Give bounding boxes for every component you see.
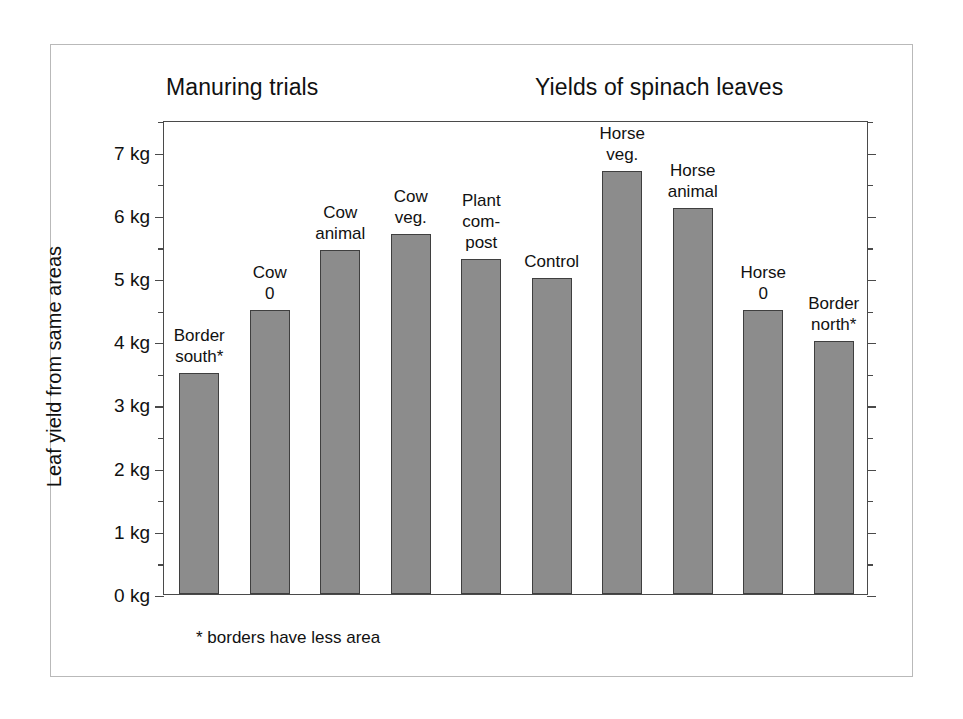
y-axis-major-tick: [867, 596, 876, 597]
chart-footnote: * borders have less area: [196, 628, 380, 648]
bar-label: Control: [524, 251, 579, 272]
chart-title-right: Yields of spinach leaves: [535, 74, 783, 101]
y-axis-tick-label: 6 kg: [114, 206, 150, 228]
y-axis-major-tick: [155, 406, 164, 407]
y-axis-minor-tick: [867, 312, 873, 313]
bar[interactable]: [391, 234, 431, 594]
y-axis-tick-label: 7 kg: [114, 143, 150, 165]
bar-label: Horse animal: [668, 160, 718, 202]
y-axis-major-tick: [155, 596, 164, 597]
bar[interactable]: [743, 310, 783, 594]
y-axis-major-tick: [867, 406, 876, 407]
y-axis-tick-label: 0 kg: [114, 585, 150, 607]
y-axis-minor-tick: [867, 248, 873, 249]
y-axis-major-tick: [867, 533, 876, 534]
bar-label: Border north*: [808, 293, 859, 335]
y-axis-title: Leaf yield from same areas: [43, 202, 66, 532]
bar[interactable]: [461, 259, 501, 594]
bar-label: Cow 0: [253, 262, 287, 304]
y-axis-major-tick: [155, 533, 164, 534]
bar-label: Cow veg.: [394, 186, 428, 228]
y-axis-minor-tick: [867, 185, 873, 186]
bar-group[interactable]: Cow 0: [250, 122, 290, 594]
y-axis-minor-tick: [867, 375, 873, 376]
y-axis-tick-label: 2 kg: [114, 459, 150, 481]
bar[interactable]: [532, 278, 572, 594]
y-axis-major-tick: [867, 154, 876, 155]
bar[interactable]: [179, 373, 219, 594]
bar[interactable]: [814, 341, 854, 594]
bar-label: Horse veg.: [600, 123, 645, 165]
bar-group[interactable]: Horse veg.: [602, 122, 642, 594]
y-axis-major-tick: [155, 470, 164, 471]
bar-group[interactable]: Horse 0: [743, 122, 783, 594]
y-axis-major-tick: [155, 217, 164, 218]
y-axis-major-tick: [155, 280, 164, 281]
y-axis-major-tick: [155, 154, 164, 155]
bar-group[interactable]: Border south*: [179, 122, 219, 594]
y-axis-major-tick: [867, 280, 876, 281]
y-axis-minor-tick: [867, 438, 873, 439]
y-axis-tick-label: 3 kg: [114, 395, 150, 417]
bar[interactable]: [320, 250, 360, 594]
bar-label: Plant com- post: [462, 190, 501, 253]
y-axis-major-tick: [867, 217, 876, 218]
chart-title-left: Manuring trials: [166, 74, 318, 101]
y-axis-major-tick: [155, 343, 164, 344]
bar-group[interactable]: Control: [532, 122, 572, 594]
bar-group[interactable]: Cow veg.: [391, 122, 431, 594]
y-axis-major-tick: [867, 470, 876, 471]
bar-series: Border south*Cow 0Cow animalCow veg.Plan…: [164, 122, 867, 594]
bar-group[interactable]: Border north*: [814, 122, 854, 594]
bar[interactable]: [250, 310, 290, 594]
y-axis-tick-label: 1 kg: [114, 522, 150, 544]
bar-label: Border south*: [174, 325, 225, 367]
y-axis-tick-label: 4 kg: [114, 332, 150, 354]
plot-area: 7 kg6 kg5 kg4 kg3 kg2 kg1 kg0 kg Border …: [163, 121, 868, 595]
y-axis-major-tick: [867, 343, 876, 344]
bar-group[interactable]: Horse animal: [673, 122, 713, 594]
bar-group[interactable]: Cow animal: [320, 122, 360, 594]
bar[interactable]: [673, 208, 713, 594]
figure-root: Manuring trials Yields of spinach leaves…: [0, 0, 963, 719]
bar-group[interactable]: Plant com- post: [461, 122, 501, 594]
bar-label: Horse 0: [741, 262, 786, 304]
y-axis-minor-tick: [867, 564, 873, 565]
y-axis-minor-tick: [867, 501, 873, 502]
y-axis-minor-tick: [867, 122, 873, 123]
bar[interactable]: [602, 171, 642, 594]
y-axis-tick-label: 5 kg: [114, 269, 150, 291]
bar-label: Cow animal: [315, 202, 365, 244]
